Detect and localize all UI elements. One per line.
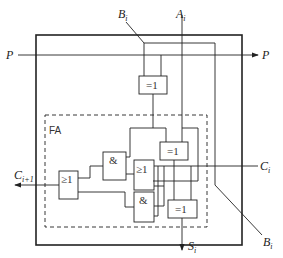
b-top-label: Bi [118,7,128,23]
b-out-label: Bi [263,235,273,251]
c-out-label: Ci+1 [14,168,34,184]
a-top-label: Ai [175,7,186,23]
or-mid-label: ≥1 [136,163,148,175]
xor-bottom-label: =1 [175,203,187,215]
fa-label: FA [49,125,62,136]
outer-cell-box [36,35,242,245]
xor-top-label: =1 [146,79,158,91]
s-out-label: Si [188,239,196,255]
and-upper-label: & [109,154,118,166]
p-in-label: P [5,48,14,62]
and-lower-label: & [139,194,148,206]
b-input-wire [126,22,144,43]
p-out-label: P [261,48,270,62]
xor-mid-label: =1 [167,145,179,157]
c-in-label: Ci [260,159,270,175]
circuit-diagram: =1 =1 =1 & & ≥1 ≥1 FA P P Bi Ai Ci Ci+1 … [0,0,283,258]
or-left-label: ≥1 [61,173,73,185]
